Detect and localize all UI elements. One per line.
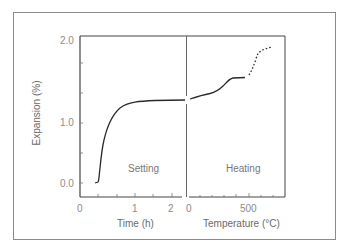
x-tick-label-time-1: 1 bbox=[132, 203, 138, 214]
x-tick-label-time-2: 2 bbox=[168, 203, 174, 214]
heating-curve bbox=[190, 78, 245, 100]
x-tick-label-time-0: 0 bbox=[77, 203, 83, 214]
x-tick-label-temp-0: 0 bbox=[186, 203, 192, 214]
x-tick-label-temp-500: 500 bbox=[240, 203, 257, 214]
x-axis-title-time: Time (h) bbox=[117, 218, 154, 229]
heating-curve-extrapolated bbox=[249, 47, 272, 75]
y-axis-title: Expansion (%) bbox=[31, 80, 42, 145]
y-tick-label-1: 1.0 bbox=[60, 117, 74, 128]
region-label-heating: Heating bbox=[226, 163, 260, 174]
region-label-setting: Setting bbox=[128, 163, 159, 174]
x-axis-title-temperature: Temperature (°C) bbox=[203, 218, 280, 229]
expansion-chart: 2.0 1.0 0.0 Expansion (%) 0 1 2 0 500 Ti… bbox=[0, 0, 344, 252]
y-tick-label-0: 0.0 bbox=[60, 178, 74, 189]
y-tick-label-2: 2.0 bbox=[60, 35, 74, 46]
